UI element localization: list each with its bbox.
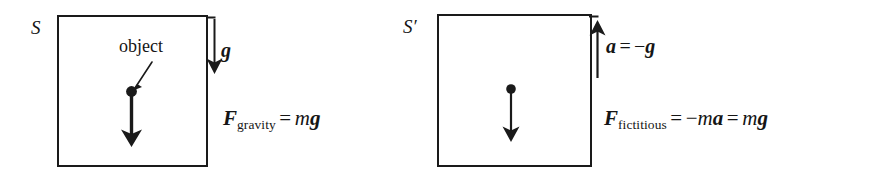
- mass-symbol: m: [742, 106, 757, 130]
- mass-symbol: m: [295, 106, 310, 130]
- force-subscript: gravity: [237, 117, 276, 132]
- minus-sign: −: [686, 106, 698, 130]
- g-vector-symbol: g: [310, 106, 321, 130]
- force-symbol: F: [604, 106, 618, 130]
- force-subscript: fictitious: [618, 117, 667, 132]
- equals-sign: =: [616, 35, 634, 57]
- physics-figure: S object g Fgravity=mg S′ a=−g Ffictitio…: [0, 0, 882, 178]
- equation-acceleration: a=−g: [606, 36, 655, 56]
- object-callout-label: object: [119, 37, 163, 55]
- g-vector-symbol: g: [757, 106, 768, 130]
- equation-f-fictitious: Ffictitious=−ma=mg: [604, 108, 768, 131]
- equation-f-gravity: Fgravity=mg: [223, 108, 320, 131]
- gravity-field-symbol: g: [221, 40, 231, 60]
- equals-sign-second: =: [723, 106, 742, 130]
- acceleration-symbol: a: [713, 106, 724, 130]
- g-glyph: g: [221, 39, 231, 61]
- g-vector-symbol: g: [645, 35, 655, 57]
- frame-box-s-prime: [437, 14, 592, 167]
- force-symbol: F: [223, 106, 237, 130]
- mass-symbol-mid: m: [698, 106, 713, 130]
- acceleration-symbol: a: [606, 35, 616, 57]
- minus-sign: −: [634, 35, 645, 57]
- frame-label-s-prime: S′: [403, 17, 417, 36]
- equals-sign: =: [276, 106, 295, 130]
- equals-sign-first: =: [667, 106, 686, 130]
- frame-label-s: S: [31, 18, 41, 37]
